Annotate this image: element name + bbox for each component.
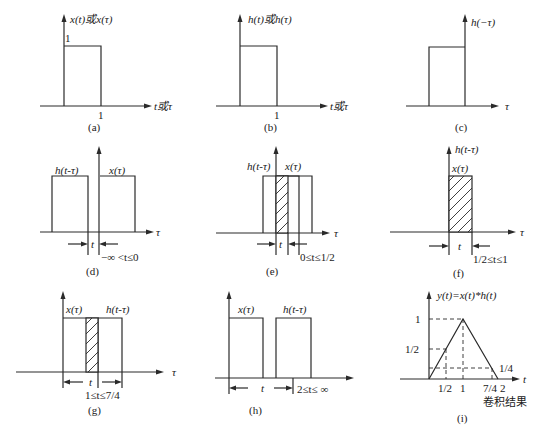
x-tick-1: 1: [460, 382, 466, 394]
x-tick-half: 1/2: [438, 382, 452, 394]
panel-i: y(t)=x(t)*h(t) 1 1/2 1/4 1/2 1 7/4 2 t 卷…: [400, 289, 527, 425]
rect-pulse-x: [64, 46, 101, 106]
t-marker: t: [279, 238, 283, 250]
panel-caption: (b): [264, 121, 277, 134]
y-axis-arrow-icon: [227, 291, 232, 299]
arrow-left-icon: [63, 380, 70, 385]
y-tick-quarter: 1/4: [499, 362, 514, 374]
t-marker: t: [261, 382, 265, 394]
y-tick-1: 1: [415, 313, 421, 325]
label-h-shifted: h(t-τ): [106, 303, 130, 316]
x-axis-label: τ: [520, 226, 525, 238]
range-label: −∞ <t≤0: [101, 251, 139, 263]
panel-g: t x(τ) h(t-τ) τ 1≤t≤7/4 (g): [16, 291, 177, 417]
rect-pulse-h-shifted: [276, 318, 311, 378]
x-axis-arrow-icon: [491, 104, 499, 109]
panel-caption: (i): [457, 412, 468, 425]
overlap-area: [449, 176, 472, 232]
range-label: 0≤t≤1/2: [300, 251, 335, 263]
y-axis-label: h(t)或h(τ): [248, 13, 292, 26]
y-axis-arrow-icon: [238, 14, 243, 22]
x-axis-label: t或τ: [330, 100, 349, 112]
y-axis-label: x(t)或x(τ): [69, 13, 113, 26]
arrow-right-icon: [442, 244, 449, 249]
arrow-left-icon: [288, 242, 295, 247]
range-label: 1/2≤t≤1: [473, 253, 508, 265]
arrow-left-icon: [472, 244, 479, 249]
y-axis-label: h(t-τ): [455, 143, 479, 156]
label-x: x(τ): [237, 303, 254, 316]
label-h-shifted: h(t-τ): [283, 303, 307, 316]
x-axis-arrow-icon: [508, 230, 516, 235]
rect-pulse-x: [100, 176, 135, 232]
y-axis-arrow-icon: [62, 14, 67, 22]
label-x: x(τ): [451, 162, 468, 175]
y-axis-label: h(−τ): [471, 16, 496, 29]
result-note: 卷积结果: [483, 395, 527, 408]
panel-b: h(t)或h(τ) 1 t或τ (b): [216, 13, 349, 134]
panel-caption: (f): [453, 267, 464, 280]
panel-a: x(t)或x(τ) 1 1 t或τ (a): [40, 13, 173, 134]
t-marker: t: [89, 376, 93, 388]
x-axis-arrow-icon: [322, 231, 330, 236]
arrow-right-icon: [269, 242, 276, 247]
panel-caption: (h): [249, 404, 262, 417]
x-axis-arrow-icon: [512, 377, 520, 382]
x-axis-arrow-icon: [146, 230, 154, 235]
rect-pulse-h: [240, 46, 277, 106]
y-axis-arrow-icon: [447, 146, 452, 154]
y-axis-arrow-icon: [274, 146, 279, 154]
x-tick-2: 2: [500, 382, 506, 394]
x-axis-arrow-icon: [144, 104, 152, 109]
arrow-right-icon: [286, 386, 293, 391]
panel-h: t x(τ) h(t-τ) 2≤t≤ ∞ (h): [215, 291, 354, 417]
x-axis-label: t: [523, 373, 527, 385]
panel-caption: (e): [266, 265, 279, 278]
panel-f: t h(t-τ) x(τ) τ 1/2≤t≤1 (f): [390, 143, 525, 280]
label-h-shifted: h(t-τ): [247, 160, 271, 173]
rect-pulse-h-reversed: [429, 47, 465, 106]
y-axis-arrow-icon: [97, 146, 102, 154]
panel-caption: (g): [88, 404, 101, 417]
overlap-area: [86, 318, 98, 372]
panel-c: h(−τ) τ (c): [406, 14, 510, 134]
convolution-figure: x(t)或x(τ) 1 1 t或τ (a) h(t)或h(τ) 1 t或τ (b…: [0, 0, 544, 433]
x-axis-label: τ: [156, 226, 161, 238]
y-axis-arrow-icon: [427, 291, 432, 299]
x-axis-label: τ: [334, 227, 339, 239]
y-tick-half: 1/2: [405, 343, 419, 355]
panel-caption: (a): [88, 121, 101, 134]
x-tick-label: 1: [274, 109, 280, 121]
y-axis-arrow-icon: [463, 14, 468, 22]
x-axis-label: t或τ: [154, 100, 173, 112]
arrow-left-icon: [99, 242, 106, 247]
x-axis-arrow-icon: [346, 376, 354, 381]
overlap-area: [276, 176, 288, 233]
t-marker: t: [91, 238, 95, 250]
x-axis-arrow-icon: [320, 104, 328, 109]
arrow-right-icon: [81, 242, 88, 247]
arrow-right-icon: [115, 380, 122, 385]
y-axis-arrow-icon: [61, 291, 66, 299]
arrow-left-icon: [229, 386, 236, 391]
label-h-shifted: h(t-τ): [55, 164, 79, 177]
x-tick-7-4: 7/4: [483, 382, 498, 394]
height-tick-label: 1: [65, 32, 71, 44]
rect-pulse-x: [229, 318, 263, 378]
y-axis-label: y(t)=x(t)*h(t): [436, 289, 497, 302]
x-tick-label: 1: [98, 109, 104, 121]
range-label: 1≤t≤7/4: [85, 389, 120, 401]
t-marker: t: [458, 240, 462, 252]
panel-e: t h(t-τ) x(τ) τ 0≤t≤1/2 (e): [216, 146, 339, 278]
panel-caption: (c): [455, 121, 468, 134]
panel-caption: (d): [86, 265, 99, 278]
label-x: x(τ): [108, 164, 125, 177]
label-x: x(τ): [65, 303, 82, 316]
range-label: 2≤t≤ ∞: [297, 383, 328, 395]
x-axis-label: τ: [172, 366, 177, 378]
x-axis-label: τ: [505, 100, 510, 112]
x-axis-arrow-icon: [156, 370, 164, 375]
label-x: x(τ): [284, 160, 301, 173]
rect-pulse-h-shifted: [98, 318, 122, 388]
panel-d: t h(t-τ) x(τ) τ −∞ <t≤0 (d): [40, 146, 161, 278]
